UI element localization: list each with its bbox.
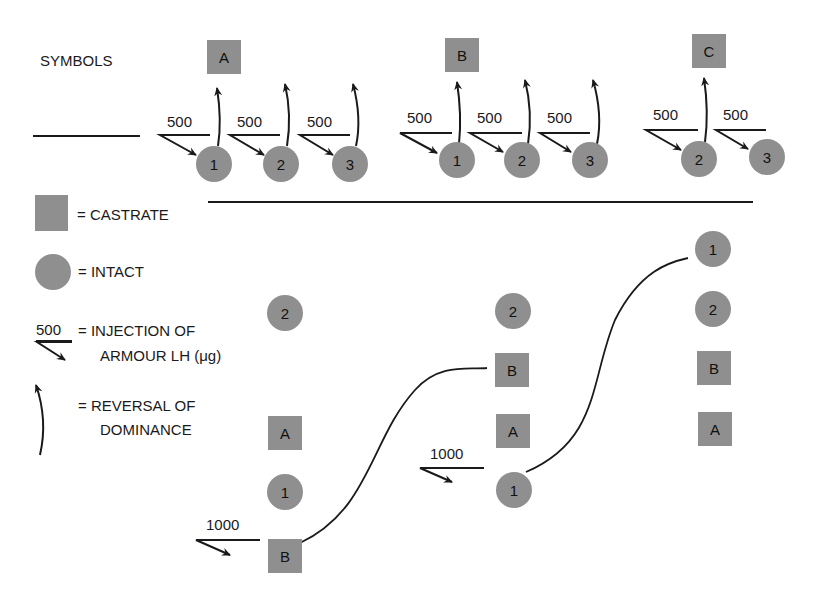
intact-2: 2 [263, 146, 299, 182]
dose-label: 500 [653, 107, 678, 123]
intact-1: 1 [439, 142, 475, 178]
reversal-curve-h2-to-h3 [526, 258, 688, 472]
intact-3: 3 [749, 139, 785, 175]
intact-2: 2 [267, 295, 303, 331]
legend-intact-circle-icon [35, 254, 71, 290]
castrate-a: A [698, 412, 732, 446]
legend-reversal-icon [36, 385, 43, 455]
legend-castrate-square-icon [35, 195, 68, 231]
legend-reversal-label-2: DOMINANCE [100, 421, 192, 438]
dose-label: 500 [547, 110, 572, 126]
dose-label: 500 [307, 114, 332, 130]
legend-injection-label-2: ARMOUR LH (μg) [100, 347, 221, 364]
castrate-a: A [496, 414, 530, 448]
legend-reversal-label-1: = REVERSAL OF [78, 397, 195, 414]
intact-1: 1 [267, 474, 303, 510]
dose-label: 500 [167, 114, 192, 130]
legend-intact-label: = INTACT [78, 263, 144, 280]
dose-label-1000: 1000 [206, 517, 239, 533]
dose-label: 500 [477, 110, 502, 126]
dose-label: 500 [407, 110, 432, 126]
castrate-b: B [445, 38, 479, 72]
legend-injection-underline [36, 340, 72, 342]
injection-arrows-group-a [160, 135, 350, 155]
castrate-a: A [207, 40, 241, 74]
intact-3: 3 [332, 146, 368, 182]
intact-3: 3 [572, 142, 608, 178]
legend-castrate-label: = CASTRATE [77, 206, 169, 223]
intact-2: 2 [504, 142, 540, 178]
intact-2: 2 [495, 293, 531, 329]
intact-1: 1 [496, 472, 532, 508]
castrate-a: A [268, 416, 302, 450]
injection-arrows-group-b [400, 133, 590, 153]
legend-title: SYMBOLS [40, 52, 113, 69]
intact-2: 2 [681, 141, 717, 177]
castrate-b: B [268, 539, 302, 573]
intact-1: 1 [695, 231, 731, 267]
intact-1: 1 [196, 146, 232, 182]
injection-arrow-1000-h2 [420, 468, 484, 482]
legend-injection-icon [37, 342, 72, 360]
castrate-b: B [495, 353, 529, 387]
legend-injection-label-1: = INJECTION OF [78, 322, 195, 339]
reversal-arrows-group-c [704, 78, 707, 142]
castrate-b: B [697, 351, 731, 385]
intact-2: 2 [695, 291, 731, 327]
injection-arrow-1000-h1 [196, 540, 260, 555]
dose-label: 500 [237, 114, 262, 130]
dose-label-1000: 1000 [430, 446, 463, 462]
legend-injection-value: 500 [36, 322, 61, 338]
castrate-c: C [692, 34, 726, 68]
dose-label: 500 [723, 107, 748, 123]
